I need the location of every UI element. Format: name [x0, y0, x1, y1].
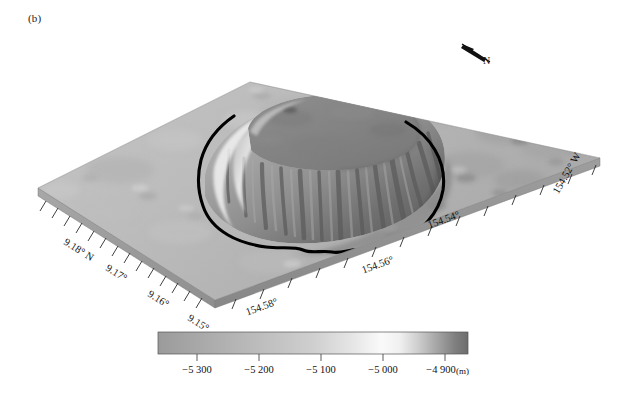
bathymetry-figure [0, 0, 627, 403]
colorbar-tick-label-0: −5 300 [182, 364, 212, 375]
panel-label: (b) [28, 12, 41, 24]
colorbar-tick-label-1: −5 200 [244, 364, 274, 375]
colorbar-tick-label-3: −5 000 [368, 364, 398, 375]
north-arrow-label: N [483, 55, 490, 66]
colorbar-tick-label-2: −5 100 [306, 364, 336, 375]
colorbar-unit-label: (m) [456, 366, 469, 376]
colorbar-gradient [158, 332, 468, 354]
colorbar-tick-label-4: −4 900 [426, 364, 456, 375]
